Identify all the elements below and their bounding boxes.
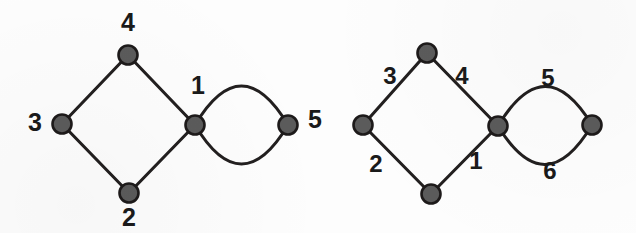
- node-label-2: 2: [122, 203, 136, 231]
- right-graph-labels: 3 4 2 1 5 6: [369, 62, 556, 184]
- node-right: [583, 116, 602, 135]
- edge-label-5: 5: [541, 64, 554, 91]
- edge-label-6: 6: [543, 157, 556, 184]
- left-graph-edges: [62, 55, 288, 193]
- edge-3-2: [62, 124, 129, 193]
- edge-1: [431, 126, 498, 194]
- left-graph: 4 3 1 2 5: [28, 8, 322, 231]
- edge-2-1: [129, 125, 195, 193]
- node-label-3: 3: [28, 108, 42, 136]
- node-top: [418, 44, 437, 63]
- node-3: [53, 115, 72, 134]
- right-graph: 3 4 2 1 5 6: [354, 44, 602, 204]
- graph-canvas: 4 3 1 2 5: [0, 0, 636, 233]
- node-center: [489, 117, 508, 136]
- left-graph-labels: 4 3 1 2 5: [28, 8, 322, 231]
- edge-label-1: 1: [469, 147, 482, 174]
- edge-1-5-upper: [195, 86, 288, 125]
- edge-4-1: [128, 55, 195, 125]
- edge-5: [498, 86, 592, 126]
- node-bottom: [422, 185, 441, 204]
- edge-3-4: [62, 55, 128, 124]
- graph-figure: 4 3 1 2 5: [0, 0, 636, 233]
- node-5: [279, 116, 298, 135]
- node-1: [186, 116, 205, 135]
- node-label-5: 5: [308, 105, 322, 133]
- node-label-4: 4: [121, 8, 135, 36]
- edge-label-4: 4: [455, 62, 469, 89]
- edge-label-3: 3: [383, 62, 396, 89]
- edge-1-5-lower: [195, 125, 288, 164]
- node-label-1: 1: [191, 71, 205, 99]
- node-4: [119, 46, 138, 65]
- left-graph-nodes: [53, 46, 298, 203]
- node-2: [120, 184, 139, 203]
- node-left: [354, 116, 373, 135]
- edge-label-2: 2: [369, 150, 382, 177]
